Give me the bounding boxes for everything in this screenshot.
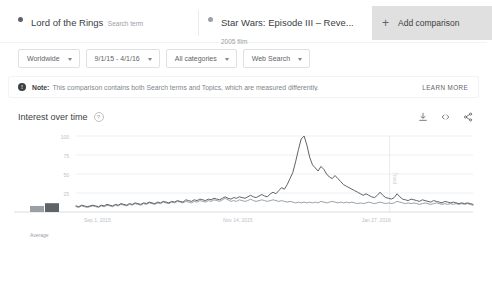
card-divider — [198, 10, 199, 36]
series-color-dot — [208, 17, 213, 22]
filter-category[interactable]: All categories ▾ — [166, 49, 237, 68]
comparison-card-0[interactable]: Lord of the Rings Search term — [8, 6, 198, 42]
y-axis-tick: 25 — [63, 191, 69, 197]
comparison-term-title: Star Wars: Episode III – Reve... — [221, 17, 354, 28]
comparison-term-subtitle: Search term — [108, 20, 143, 27]
chart-canvas: 255075100TrendSep 1, 2015Nov 14, 2015Jan… — [8, 130, 479, 238]
chevron-down-icon: ▾ — [224, 55, 228, 62]
filter-date-range-label: 9/1/15 - 4/1/16 — [95, 55, 140, 62]
add-comparison-button[interactable]: + Add comparison — [372, 6, 492, 40]
average-label: Average — [30, 232, 49, 238]
embed-icon[interactable] — [440, 112, 451, 122]
chevron-down-icon: ▾ — [298, 55, 302, 62]
note-banner: ! Note: This comparison contains both Se… — [8, 76, 479, 98]
average-bar — [30, 206, 44, 212]
y-axis-tick: 50 — [63, 172, 69, 178]
chart-series-line — [76, 136, 473, 207]
x-axis-tick: Nov 14, 2015 — [223, 217, 253, 223]
y-axis-tick: 100 — [61, 134, 70, 140]
average-bar — [45, 203, 59, 212]
interest-over-time-header: Interest over time ? — [0, 98, 487, 122]
page-title: Interest over time — [18, 112, 88, 122]
filter-search-type[interactable]: Web Search ▾ — [243, 49, 310, 68]
filter-category-label: All categories — [175, 55, 217, 62]
filter-search-type-label: Web Search — [252, 55, 290, 62]
comparison-bar: Lord of the Rings Search term Star Wars:… — [0, 0, 487, 42]
chart-annotation: Trend — [392, 172, 397, 184]
info-icon: ! — [18, 83, 26, 91]
comparison-term-title: Lord of the Rings — [31, 17, 103, 28]
learn-more-link[interactable]: LEARN MORE — [422, 84, 468, 91]
filter-date-range[interactable]: 9/1/15 - 4/1/16 ▾ — [86, 49, 160, 68]
plus-icon: + — [382, 17, 389, 29]
share-icon[interactable] — [463, 112, 473, 122]
chart-actions — [418, 112, 473, 122]
chevron-down-icon: ▾ — [67, 55, 71, 62]
filter-location-label: Worldwide — [27, 55, 60, 62]
note-label: Note: — [32, 84, 49, 91]
add-comparison-label: Add comparison — [398, 18, 459, 28]
interest-over-time-chart[interactable]: 255075100TrendSep 1, 2015Nov 14, 2015Jan… — [0, 130, 487, 240]
note-text: This comparison contains both Search ter… — [52, 84, 422, 91]
chevron-down-icon: ▾ — [147, 55, 151, 62]
y-axis-tick: 75 — [63, 153, 69, 159]
comparison-card-1[interactable]: Star Wars: Episode III – Reve... 2005 fi… — [198, 6, 366, 42]
filter-location[interactable]: Worldwide ▾ — [18, 49, 80, 68]
x-axis-tick: Sep 1, 2015 — [84, 217, 111, 223]
download-icon[interactable] — [418, 112, 428, 122]
comparison-term-subtitle: 2005 film — [221, 38, 247, 45]
x-axis-tick: Jan 27, 2016 — [362, 217, 391, 223]
help-icon[interactable]: ? — [94, 112, 104, 122]
series-color-dot — [18, 17, 23, 22]
